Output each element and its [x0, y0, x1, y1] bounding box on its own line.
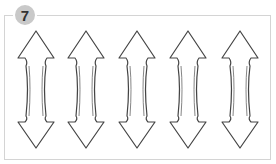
double-arrow-3	[119, 31, 155, 148]
double-arrow-1	[18, 31, 54, 148]
double-arrow-4	[170, 31, 206, 148]
double-arrow-5	[222, 31, 258, 148]
double-arrow-2	[68, 31, 104, 148]
arrows-figure	[0, 0, 276, 164]
